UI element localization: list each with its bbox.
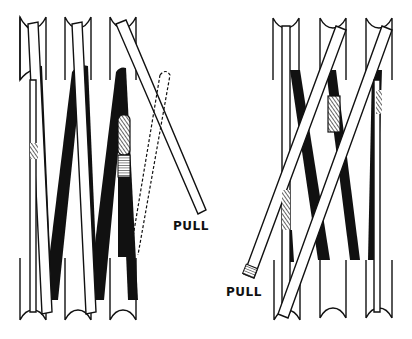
left-pulleys-bottom bbox=[20, 258, 136, 320]
right-panel: PULL bbox=[226, 18, 392, 320]
illustration: PULL bbox=[0, 0, 412, 339]
right-pull-label: PULL bbox=[226, 285, 262, 299]
left-hatch-mark bbox=[30, 143, 38, 159]
right-rods bbox=[244, 26, 392, 318]
left-pull-label: PULL bbox=[173, 219, 209, 233]
left-panel: PULL bbox=[20, 17, 209, 320]
